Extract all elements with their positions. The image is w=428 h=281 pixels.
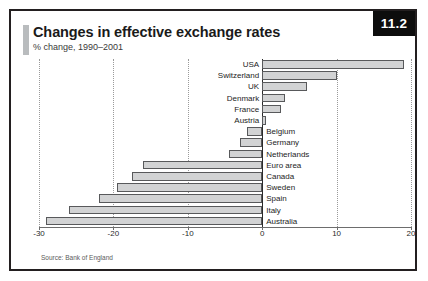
chart-row: Canada — [39, 171, 411, 182]
chart-row: France — [39, 104, 411, 115]
bar-label: Canada — [266, 172, 294, 182]
title-accent-bar — [23, 25, 29, 55]
chart-row: Switzerland — [39, 70, 411, 81]
chart-row: UK — [39, 81, 411, 92]
chapter-badge-label: 11.2 — [381, 16, 407, 31]
plot-area: USASwitzerlandUKDenmarkFranceAustriaBelg… — [39, 59, 411, 227]
bar-label: Denmark — [227, 94, 259, 104]
bar — [143, 161, 262, 170]
bar-label: UK — [248, 82, 259, 92]
bar-label: Netherlands — [266, 150, 309, 160]
bar-label: Euro area — [266, 161, 301, 171]
chapter-badge: 11.2 — [373, 11, 415, 36]
bar — [262, 71, 336, 80]
chart-row: Austria — [39, 115, 411, 126]
x-tick-label: -20 — [108, 229, 120, 238]
bar — [262, 105, 281, 114]
chart-row: Euro area — [39, 160, 411, 171]
bar-label: Austria — [234, 116, 259, 126]
chart-row: Sweden — [39, 182, 411, 193]
chart-row: USA — [39, 59, 411, 70]
chart-row: Germany — [39, 137, 411, 148]
bar — [262, 94, 284, 103]
bar-label: Belgium — [266, 127, 295, 137]
bar-label: France — [234, 105, 259, 115]
bar-label: Switzerland — [218, 71, 259, 81]
x-tick-label: 0 — [260, 229, 264, 238]
x-axis-line — [39, 227, 411, 228]
bar-label: Sweden — [266, 183, 295, 193]
chart-row: Denmark — [39, 93, 411, 104]
chart-title: Changes in effective exchange rates — [33, 24, 280, 40]
bar-label: USA — [243, 60, 259, 70]
bar — [132, 172, 262, 181]
bar — [117, 183, 262, 192]
chart-row: Belgium — [39, 126, 411, 137]
x-tick-label: -30 — [33, 229, 45, 238]
source-note: Source: Bank of England — [41, 254, 113, 261]
chart-frame: 11.2 Changes in effective exchange rates… — [9, 9, 417, 271]
bar — [262, 116, 266, 125]
x-tick-label: -10 — [182, 229, 194, 238]
bar — [262, 82, 307, 91]
bar — [46, 217, 262, 226]
bar — [240, 138, 262, 147]
bar — [229, 150, 262, 159]
bar-label: Australia — [266, 217, 297, 227]
x-tick-label: 10 — [332, 229, 341, 238]
chart-row: Netherlands — [39, 149, 411, 160]
bar — [262, 60, 403, 69]
gridline — [411, 59, 412, 227]
bar — [99, 194, 263, 203]
x-tick-label: 20 — [407, 229, 416, 238]
chart-row: Australia — [39, 216, 411, 227]
bar-label: Italy — [266, 206, 281, 216]
bar-label: Spain — [266, 194, 286, 204]
bar — [247, 127, 262, 136]
chart-row: Spain — [39, 193, 411, 204]
bar — [69, 206, 262, 215]
bar-label: Germany — [266, 138, 299, 148]
chart-subtitle: % change, 1990–2001 — [33, 42, 123, 52]
chart-row: Italy — [39, 205, 411, 216]
